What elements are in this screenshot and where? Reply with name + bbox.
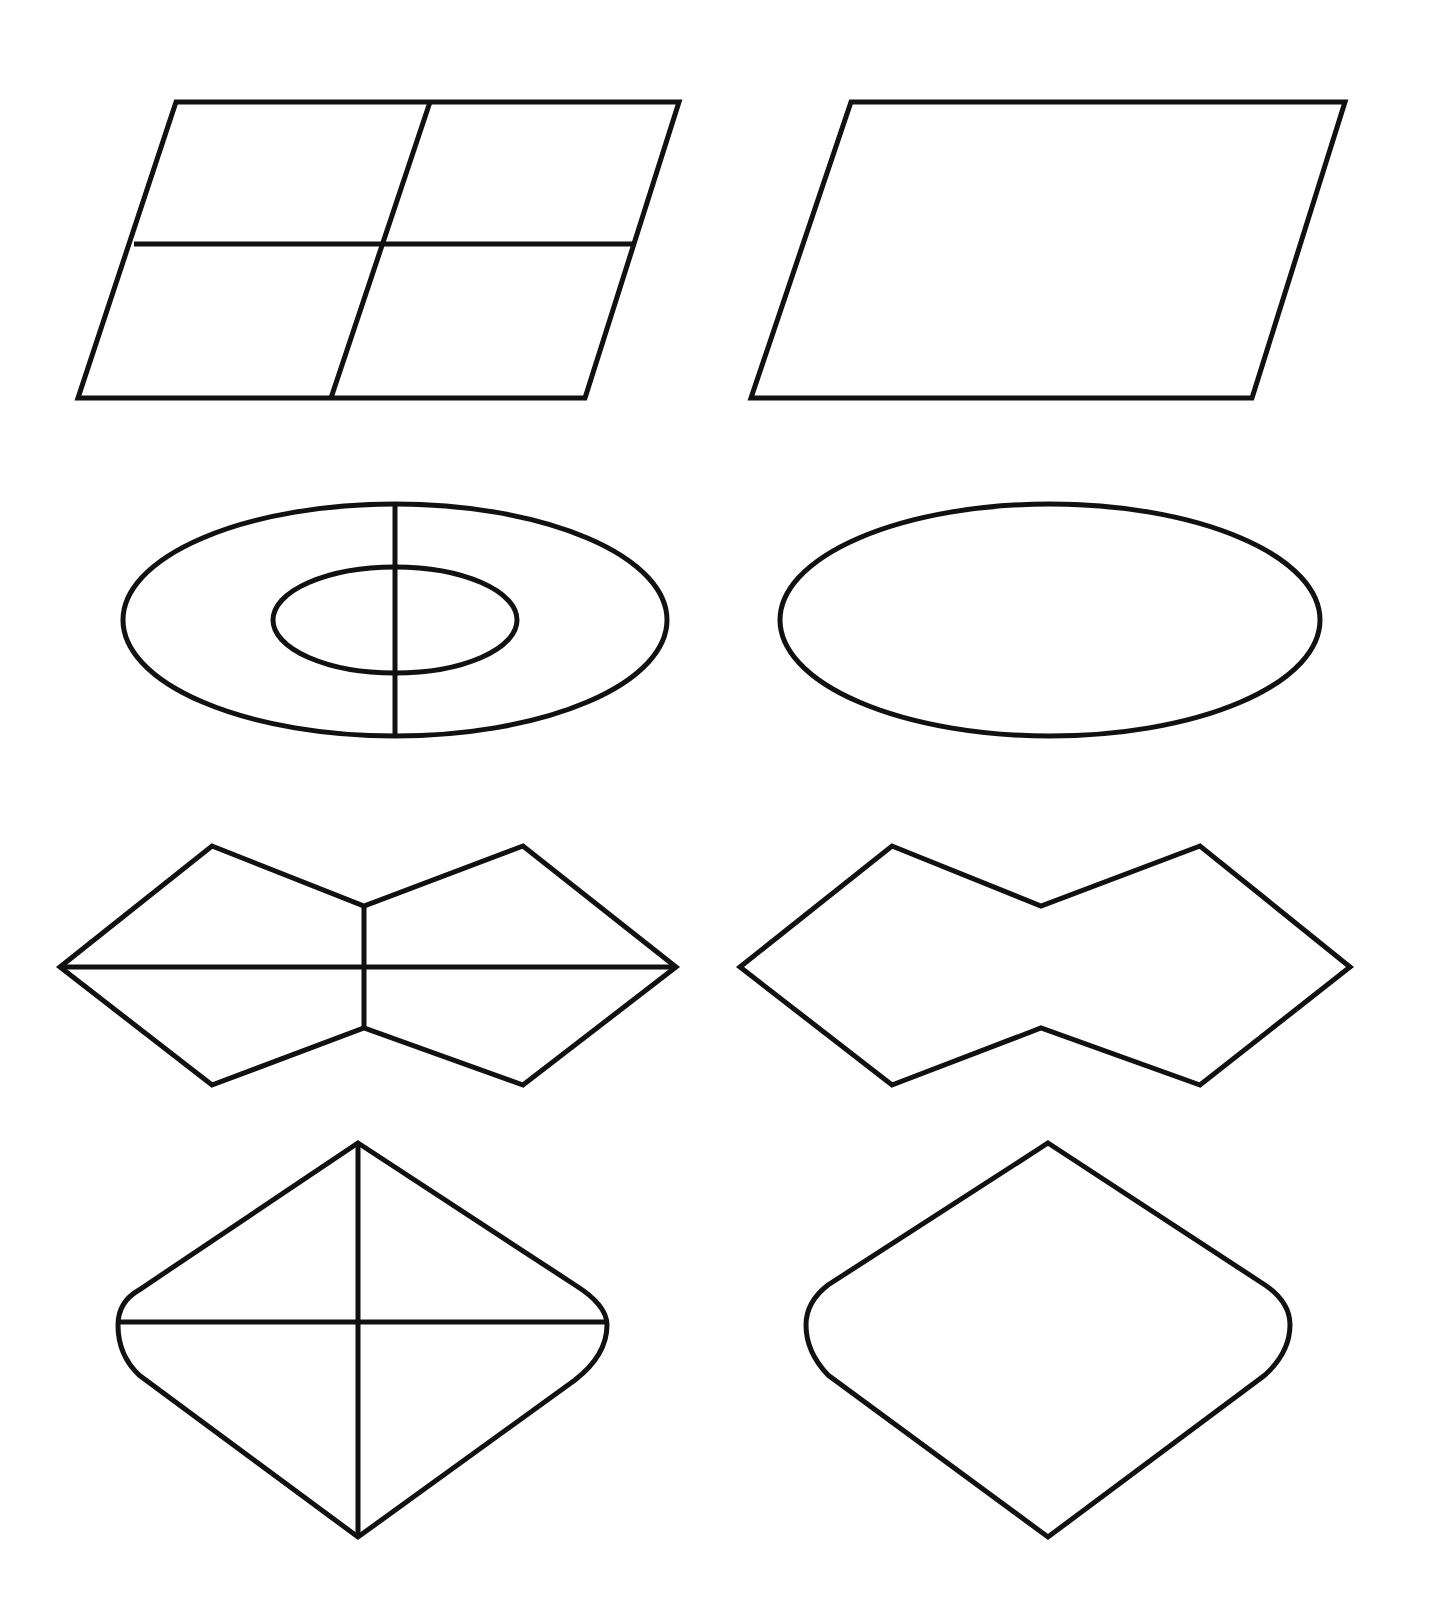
shapes-canvas [0,0,1430,1610]
rounded-rhombus [806,1143,1290,1537]
bowtie-hexagon-divided [60,846,676,1085]
ellipse-ring-divided [123,504,667,736]
rounded-rhombus-divided [118,1143,607,1537]
ellipse [780,504,1320,736]
parallelogram-divided [78,102,679,398]
parallelogram [751,102,1345,398]
bowtie-hexagon [740,846,1350,1085]
